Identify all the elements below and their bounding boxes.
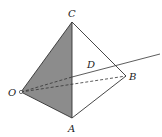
- line-od-visible: [72, 54, 160, 77]
- label-o: O: [8, 87, 16, 98]
- label-d: D: [86, 59, 95, 70]
- label-a: A: [67, 123, 75, 134]
- edge-ab: [72, 76, 126, 118]
- label-c: C: [68, 8, 76, 19]
- label-b: B: [128, 71, 136, 82]
- edge-cb: [72, 22, 126, 76]
- shaded-face-oca: [21, 22, 72, 118]
- point-o-marker: [19, 90, 22, 93]
- tetrahedron-diagram: C A O B D: [0, 0, 162, 137]
